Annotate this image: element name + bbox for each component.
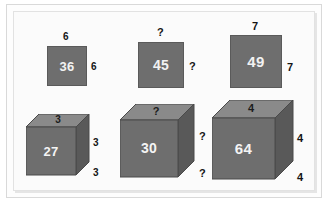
cube-64-top-value: 4 xyxy=(243,102,259,114)
dim-square-49-right: 7 xyxy=(287,62,293,73)
dim-cube-64-right-upper: 4 xyxy=(297,133,303,144)
square-face-value: 36 xyxy=(59,59,74,74)
square-face-49: 49 xyxy=(230,35,282,88)
square-face-45: 45 xyxy=(138,42,184,88)
dim-square-45-right: ? xyxy=(189,61,196,72)
dim-cube-30-right-lower: ? xyxy=(199,168,206,179)
dim-cube-27-right-upper: 3 xyxy=(93,138,99,148)
dim-cube-27-right-lower: 3 xyxy=(93,168,99,178)
dim-square-49-top: 7 xyxy=(252,21,258,32)
shape-cube-64: 4 64 xyxy=(212,100,294,180)
dim-square-36-right: 6 xyxy=(91,62,97,72)
dim-cube-30-right-upper: ? xyxy=(199,131,206,142)
cube-30-face-value: 30 xyxy=(120,140,178,156)
dim-square-36-top: 6 xyxy=(63,32,69,42)
figure-stage: 36 6 6 45 ? ? 49 7 7 3 27 3 3 ? xyxy=(0,0,328,211)
shape-cube-27: 3 27 xyxy=(26,114,90,176)
shape-square-45: 45 xyxy=(138,42,184,88)
square-face-value: 49 xyxy=(247,53,264,70)
shape-square-36: 36 xyxy=(47,46,87,86)
cube-30-top-value: ? xyxy=(148,105,164,117)
cube-27-top-value: 3 xyxy=(50,114,66,125)
square-face-value: 45 xyxy=(153,57,169,73)
dim-square-45-top: ? xyxy=(157,27,164,38)
dim-cube-64-right-lower: 4 xyxy=(297,172,303,183)
shape-square-49: 49 xyxy=(230,35,282,88)
cube-27-face-value: 27 xyxy=(26,144,76,159)
square-face-36: 36 xyxy=(47,46,87,86)
cube-64-face-value: 64 xyxy=(212,140,275,157)
shape-cube-30: ? 30 xyxy=(120,104,195,178)
